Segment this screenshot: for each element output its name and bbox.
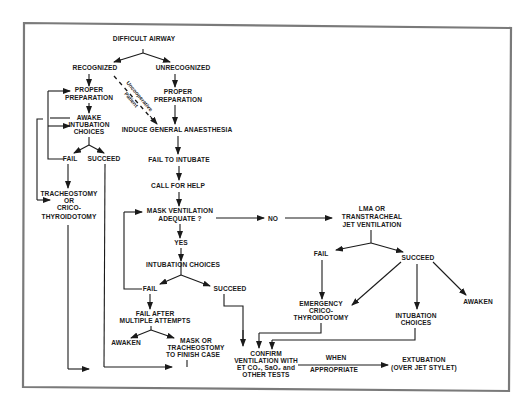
- node-emergency-l1: EMERGENCY: [299, 300, 343, 307]
- node-emergency-l3: THYROIDOTOMY: [294, 314, 349, 321]
- node-unrecognized: UNRECOGNIZED: [156, 64, 211, 71]
- node-awaken-left: AWAKEN: [111, 339, 141, 346]
- connector-fail-loop: [48, 91, 64, 159]
- node-mask-trach-l2: TRACHEOSTOMY: [167, 344, 225, 351]
- connector-emergency-to-confirm: [259, 323, 321, 333]
- node-intubation-choices-mid: INTUBATION CHOICES: [146, 261, 220, 268]
- diagram-frame: [23, 23, 511, 391]
- node-emergency-l2: CRICO-: [309, 307, 333, 314]
- arrow-to-mask-trach: [151, 330, 174, 338]
- node-awaken-right: AWAKEN: [463, 298, 493, 305]
- arrow-awake-to-fail: [74, 145, 89, 153]
- node-lma-l1: LMA OR: [359, 205, 385, 212]
- node-fail-to-intubate: FAIL TO INTUBATE: [148, 156, 210, 163]
- node-succeed-left: SUCCEED: [88, 155, 121, 162]
- node-yes: YES: [174, 239, 188, 246]
- arrow-succeed-to-emergency: [352, 262, 401, 305]
- node-proper-prep-left-l2: PREPARATION: [65, 94, 113, 101]
- arrow-choices-to-succeed: [181, 275, 210, 286]
- node-confirm-l1: CONFIRM: [250, 350, 282, 357]
- arrow-uncooperative-to-induce: [150, 116, 157, 124]
- node-no: NO: [268, 215, 278, 222]
- node-extubation-l2: (OVER JET STYLET): [391, 364, 457, 372]
- node-trach-l3: CRICO-: [57, 204, 81, 211]
- connector-succeed-mid: [224, 294, 243, 342]
- connector-succeed-down: [104, 164, 105, 367]
- arrow-awake-to-succeed: [89, 145, 104, 153]
- node-mask-vent-l2: ADEQUATE ?: [158, 215, 201, 223]
- node-labels: DIFFICULT AIRWAY RECOGNIZED UNRECOGNIZED…: [40, 35, 492, 378]
- node-call-for-help: CALL FOR HELP: [151, 182, 205, 189]
- node-confirm-l4: OTHER TESTS: [242, 371, 290, 378]
- node-succeed-lma: SUCCEED: [402, 254, 435, 261]
- node-fail-after-l2: MULTIPLE ATTEMPTS: [120, 317, 191, 324]
- arrow-to-recognized: [114, 53, 143, 62]
- node-awake-l1: AWAKE: [77, 114, 102, 121]
- node-difficult-airway: DIFFICULT AIRWAY: [113, 35, 176, 42]
- node-proper-prep-left-l1: PROPER: [75, 86, 104, 93]
- node-lma-l2: TRANSTRACHEAL: [342, 213, 402, 220]
- node-proper-prep-right-l2: PREPARATION: [154, 96, 202, 103]
- node-recognized: RECOGNIZED: [73, 64, 118, 71]
- node-intub-choices-right-l2: CHOICES: [401, 319, 432, 326]
- node-intub-choices-right-l1: INTUBATION: [395, 312, 436, 319]
- node-confirm-l2: VENTILATION WITH: [234, 357, 298, 364]
- node-induce-ga: INDUCE GENERAL ANAESTHESIA: [122, 126, 233, 133]
- node-awake-l2: INTUBATION: [68, 121, 109, 128]
- node-fail-after-l1: FAIL AFTER: [136, 310, 175, 317]
- node-mask-trach-l3: TO FINISH CASE: [166, 351, 221, 358]
- node-trach-l1: TRACHEOSTOMY: [40, 190, 98, 197]
- node-awake-l3: CHOICES: [74, 128, 105, 135]
- node-mask-trach-l1: MASK OR: [180, 337, 212, 344]
- difficult-airway-flowchart: DIFFICULT AIRWAY RECOGNIZED UNRECOGNIZED…: [0, 0, 527, 407]
- node-lma-l3: JET VENTILATION: [343, 221, 402, 228]
- connector-intub-right-to-confirm: [272, 328, 415, 340]
- node-fail-lma: FAIL: [314, 250, 329, 257]
- node-fail-mid: FAIL: [143, 285, 158, 292]
- arrow-succeed-to-awaken: [433, 262, 466, 295]
- connector-outer-vertical: [37, 119, 43, 200]
- arrow-lma-to-succeed: [371, 243, 403, 252]
- arrow-choices-to-fail: [160, 275, 181, 284]
- node-proper-prep-right-l1: PROPER: [164, 88, 193, 95]
- node-trach-l2: OR: [64, 197, 74, 204]
- node-extubation-l1: EXTUBATION: [402, 356, 446, 363]
- arrow-to-awaken-left: [131, 330, 151, 338]
- node-fail-left: FAIL: [63, 155, 78, 162]
- node-mask-vent-l1: MASK VENTILATION: [147, 207, 213, 214]
- node-succeed-mid: SUCCEED: [214, 285, 247, 292]
- label-when: WHEN: [326, 354, 347, 361]
- arrow-to-unrecognized: [143, 53, 170, 62]
- label-appropriate: APPROPRIATE: [310, 366, 359, 373]
- node-trach-l4: THYROIDOTOMY: [42, 213, 97, 220]
- connector-fail-mid-loop: [124, 212, 142, 289]
- arrow-lma-to-fail: [336, 243, 371, 250]
